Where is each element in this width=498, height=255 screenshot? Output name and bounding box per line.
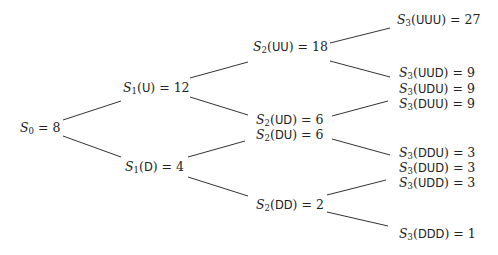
node-equals: = xyxy=(449,226,467,241)
node-path: UDD xyxy=(418,176,444,190)
node-value: 1 xyxy=(468,226,476,241)
node-s3-uuu: S3(UUU) = 27 xyxy=(397,13,480,27)
node-symbol: S xyxy=(20,120,29,135)
node-equals: = xyxy=(298,197,316,212)
node-path: DDD xyxy=(418,227,445,241)
node-s2-dd: S2(DD) = 2 xyxy=(256,198,324,212)
node-path: UD xyxy=(275,113,292,127)
node-equals: = xyxy=(449,160,467,175)
node-path: DUD xyxy=(418,161,444,175)
node-value: 9 xyxy=(467,96,475,111)
node-value: 6 xyxy=(315,112,323,127)
edge-s2_dd-to-s3_udd xyxy=(327,180,386,195)
node-value: 12 xyxy=(174,80,190,95)
node-equals: = xyxy=(158,159,176,174)
edge-s0-to-s1_u xyxy=(63,101,121,120)
node-path: D xyxy=(144,160,153,174)
node-equals: = xyxy=(448,65,466,80)
node-path: DU xyxy=(275,128,292,142)
node-equals: = xyxy=(297,127,315,142)
node-equals: = xyxy=(448,96,466,111)
edge-s2_ud-to-s3_duu xyxy=(332,101,388,116)
node-symbol: S xyxy=(399,226,408,241)
node-path: DDU xyxy=(418,146,444,160)
edge-s2_du-to-s3_ddu xyxy=(332,139,390,155)
node-symbol: S xyxy=(399,96,408,111)
node-symbol: S xyxy=(125,159,134,174)
node-equals: = xyxy=(446,12,464,27)
node-value: 3 xyxy=(467,160,475,175)
node-equals: = xyxy=(297,112,315,127)
node-s0: S0 = 8 xyxy=(20,121,60,135)
node-path: DD xyxy=(275,198,293,212)
node-symbol: S xyxy=(256,112,265,127)
edge-s2_dd-to-s3_ddd xyxy=(327,212,388,226)
node-equals: = xyxy=(448,81,466,96)
node-symbol: S xyxy=(399,175,408,190)
node-path: UUU xyxy=(416,13,441,27)
node-s2-uu: S2(UU) = 18 xyxy=(253,40,328,54)
node-value: 9 xyxy=(467,81,475,96)
node-s3-udu: S3(UDU) = 9 xyxy=(399,82,475,96)
node-equals: = xyxy=(34,120,52,135)
node-equals: = xyxy=(449,175,467,190)
node-symbol: S xyxy=(256,127,265,142)
node-symbol: S xyxy=(399,145,408,160)
node-value: 8 xyxy=(52,120,60,135)
node-s1-d: S1(D) = 4 xyxy=(125,160,184,174)
node-s3-uud: S3(UUD) = 9 xyxy=(399,66,475,80)
node-equals: = xyxy=(294,39,312,54)
edge-s0-to-s1_d xyxy=(63,136,121,157)
edge-s1_d-to-s2_du xyxy=(188,141,245,157)
node-path: UDU xyxy=(418,82,444,96)
node-symbol: S xyxy=(253,39,262,54)
node-value: 27 xyxy=(464,12,480,27)
node-value: 9 xyxy=(467,65,475,80)
node-s2-du: S2(DU) = 6 xyxy=(256,128,323,142)
node-path: UU xyxy=(272,40,289,54)
node-s3-udd: S3(UDD) = 3 xyxy=(399,176,475,190)
node-value: 3 xyxy=(467,175,475,190)
node-path: UUD xyxy=(418,66,444,80)
edge-s1_u-to-s2_ud xyxy=(190,97,248,115)
node-value: 18 xyxy=(312,39,328,54)
node-s3-dud: S3(DUD) = 3 xyxy=(399,161,475,175)
node-equals: = xyxy=(155,80,173,95)
edge-s2_uu-to-s3_uud xyxy=(330,61,390,77)
node-s1-u: S1(U) = 12 xyxy=(123,81,190,95)
node-symbol: S xyxy=(397,12,406,27)
node-value: 3 xyxy=(467,145,475,160)
edge-s1_d-to-s2_dd xyxy=(188,177,248,196)
edge-s2_uu-to-s3_uuu xyxy=(330,28,390,43)
node-equals: = xyxy=(449,145,467,160)
binomial-tree-edges xyxy=(0,0,498,255)
node-s3-ddu: S3(DDU) = 3 xyxy=(399,146,475,160)
node-s3-duu: S3(DUU) = 9 xyxy=(399,97,475,111)
node-value: 2 xyxy=(316,197,324,212)
node-s2-ud: S2(UD) = 6 xyxy=(256,113,323,127)
node-value: 6 xyxy=(315,127,323,142)
node-value: 4 xyxy=(176,159,184,174)
node-symbol: S xyxy=(123,80,132,95)
edge-s1_u-to-s2_uu xyxy=(190,62,248,78)
node-symbol: S xyxy=(399,160,408,175)
node-s3-ddd: S3(DDD) = 1 xyxy=(399,227,476,241)
node-symbol: S xyxy=(399,81,408,96)
node-path: DUU xyxy=(418,97,444,111)
node-symbol: S xyxy=(399,65,408,80)
node-symbol: S xyxy=(256,197,265,212)
